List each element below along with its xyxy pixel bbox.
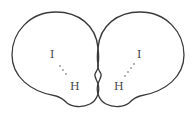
left-iodine-label: I	[50, 48, 54, 61]
right-hydrogen-label: H	[114, 80, 124, 93]
right-iodine-label: I	[137, 48, 141, 61]
left-density-contour	[12, 12, 99, 107]
diagram-canvas: I H I H	[0, 0, 195, 115]
left-dotted-bond	[59, 65, 67, 75]
left-hydrogen-label: H	[70, 80, 80, 93]
right-dotted-bond	[124, 63, 135, 77]
